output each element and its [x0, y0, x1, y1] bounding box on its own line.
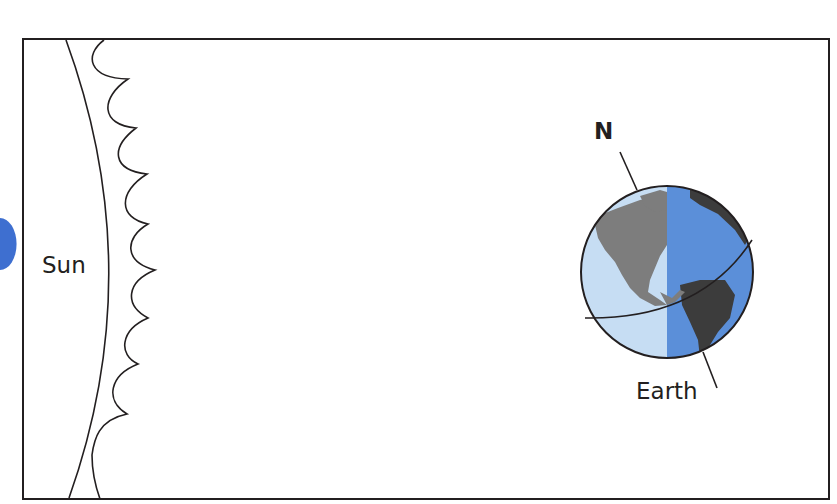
- sun-radiation-wave: [92, 40, 155, 499]
- sun-label: Sun: [42, 252, 86, 278]
- edge-circle-fragment: [0, 218, 17, 270]
- earth-globe: [570, 180, 767, 370]
- north-pointer-line: [620, 152, 637, 190]
- earth-pointer-line: [703, 352, 717, 388]
- north-label: N: [594, 118, 613, 144]
- sun-earth-diagram: [0, 0, 837, 504]
- earth-label: Earth: [636, 378, 698, 404]
